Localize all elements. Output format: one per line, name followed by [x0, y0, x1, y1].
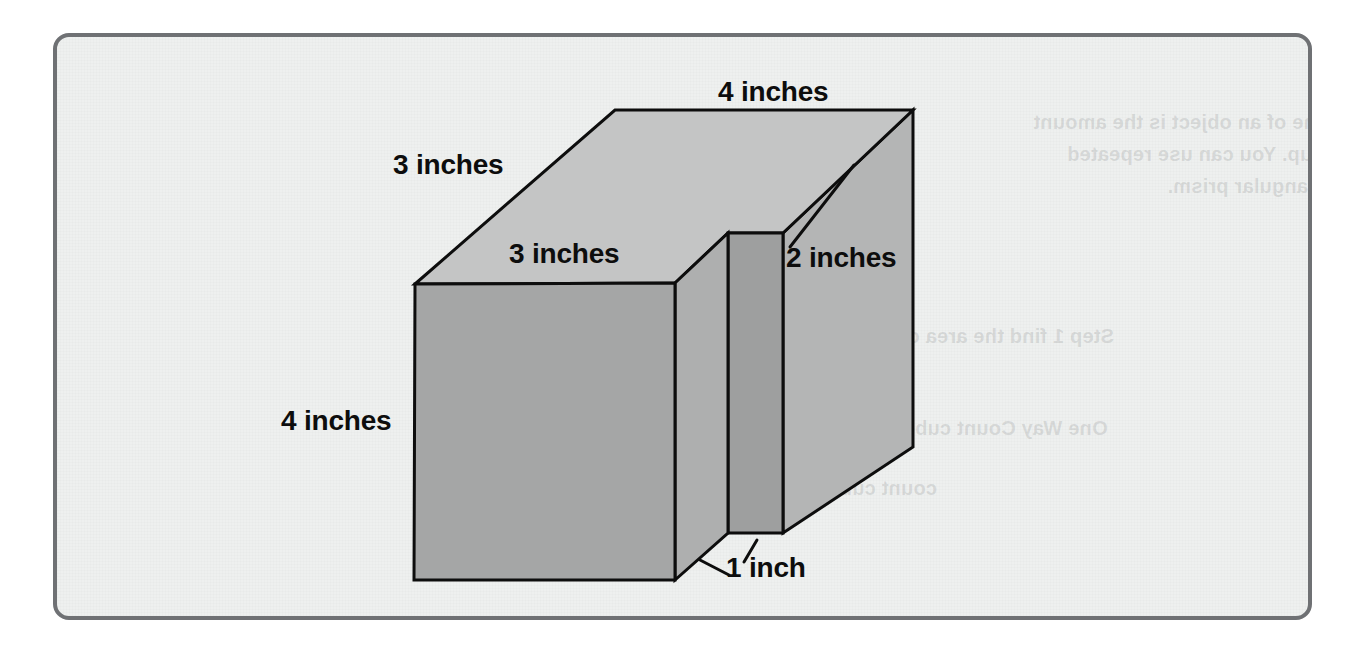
prism-inner-side-face [675, 233, 728, 580]
dimension-label-upper-3-inches: 3 inches [393, 151, 503, 179]
figure-page: the volume of an object is the amount of… [0, 0, 1352, 654]
dimension-label-right-2-inches: 2 inches [786, 244, 896, 272]
prism-notch-face [728, 233, 783, 533]
dimension-label-left-4-inches: 4 inches [281, 407, 391, 435]
prism-front-face [414, 283, 675, 580]
dimension-label-inner-3-inches: 3 inches [509, 240, 619, 268]
prism-drawing [0, 0, 1352, 654]
dimension-label-bottom-1-inch: 1 inch [726, 554, 806, 582]
dimension-label-top-4-inches: 4 inches [718, 78, 828, 106]
leader-line-1-inch-left [700, 560, 729, 575]
